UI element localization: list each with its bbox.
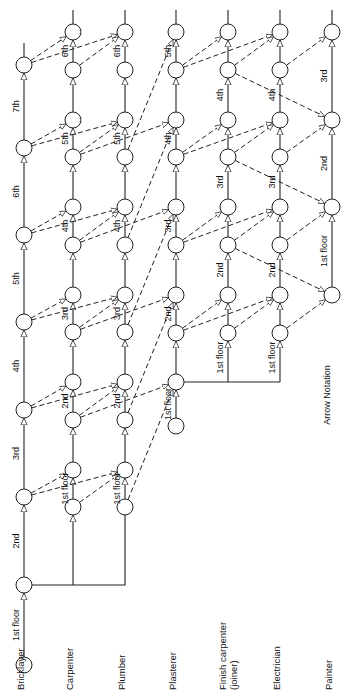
event-node — [220, 287, 236, 303]
event-node — [65, 374, 81, 390]
dummy-arrow — [286, 37, 325, 66]
activity-label: 6th — [11, 185, 21, 198]
activity-label: 4th — [215, 89, 225, 102]
trade-label: Plasterer — [167, 652, 178, 690]
diagram-caption: Arrow Notation — [322, 365, 332, 425]
event-node — [16, 489, 32, 505]
event-node — [324, 24, 340, 40]
activity-label: 3rd — [215, 175, 225, 188]
event-node — [16, 140, 32, 156]
activity-label: 4th — [11, 360, 21, 373]
start-connector — [32, 515, 125, 585]
activity-label: 1st floor — [163, 388, 173, 420]
event-node — [324, 112, 340, 128]
activity-label: 3rd — [319, 69, 329, 82]
event-node — [117, 24, 133, 40]
event-node — [65, 112, 81, 128]
event-node — [65, 62, 81, 78]
event-node — [272, 24, 288, 40]
event-node — [220, 199, 236, 215]
event-node — [117, 62, 133, 78]
activity-labels: 1st floor2nd3rd4th5th6th7th1st floor2nd3… — [11, 45, 329, 641]
event-node — [168, 287, 184, 303]
event-node — [168, 149, 184, 165]
event-node — [168, 112, 184, 128]
trade-label: Carpenter — [64, 648, 75, 690]
event-node — [117, 412, 133, 428]
activity-label: 6th — [112, 45, 122, 58]
activity-label: 2nd — [163, 306, 173, 321]
activity-label: 3rd — [60, 307, 70, 320]
event-node — [168, 237, 184, 253]
event-node — [220, 112, 236, 128]
activity-label: 4th — [267, 89, 277, 102]
activity-label: 4th — [60, 220, 70, 233]
event-node — [117, 237, 133, 253]
activity-label: 2nd — [60, 393, 70, 408]
trade-label: Electrician — [271, 646, 282, 690]
activity-label: 5th — [60, 132, 70, 145]
activity-label: 1st floor — [319, 235, 329, 267]
dummy-arrow — [287, 125, 326, 153]
activity-label: 2nd — [11, 533, 21, 548]
event-node — [168, 199, 184, 215]
dummy-arrow — [286, 300, 325, 329]
event-node — [168, 325, 184, 341]
activity-label: 2nd — [267, 262, 277, 277]
activity-label: 7th — [11, 100, 21, 113]
event-node — [324, 199, 340, 215]
event-node — [220, 237, 236, 253]
activity-label: 5th — [163, 45, 173, 58]
event-node — [272, 199, 288, 215]
activity-label: 5th — [112, 132, 122, 145]
activity-label: 1st floor — [267, 341, 277, 373]
activity-label: 6th — [60, 45, 70, 58]
event-node — [16, 57, 32, 73]
trade-label: Painter — [323, 660, 334, 690]
event-node — [65, 199, 81, 215]
event-node — [16, 577, 32, 593]
event-node — [272, 112, 288, 128]
activity-label: 3rd — [267, 175, 277, 188]
activity-label: 1st floor — [11, 609, 21, 641]
activity-label: 3rd — [112, 307, 122, 320]
trade-labels: BricklayerCarpenterPlumberPlastererFinis… — [15, 622, 334, 690]
event-node — [168, 62, 184, 78]
event-node — [117, 287, 133, 303]
event-node — [117, 374, 133, 390]
event-node — [117, 149, 133, 165]
event-node — [16, 402, 32, 418]
event-node — [168, 374, 184, 390]
event-nodes — [16, 24, 340, 673]
activity-label: 1st floor — [215, 341, 225, 373]
activity-label: 2nd — [112, 393, 122, 408]
event-node — [16, 227, 32, 243]
event-node — [272, 237, 288, 253]
arrow-notation-diagram: 1st floor2nd3rd4th5th6th7th1st floor2nd3… — [0, 0, 362, 699]
activity-label: 3rd — [11, 447, 21, 460]
activity-label: 4th — [163, 132, 173, 145]
event-node — [168, 24, 184, 40]
event-node — [272, 62, 288, 78]
event-node — [65, 237, 81, 253]
event-node — [117, 324, 133, 340]
trade-label: Bricklayer — [15, 648, 26, 690]
activity-label: 4th — [112, 220, 122, 233]
event-node — [117, 112, 133, 128]
event-node — [65, 412, 81, 428]
activity-label: 3rd — [163, 219, 173, 232]
event-node — [16, 314, 32, 330]
event-node — [117, 199, 133, 215]
activity-label: 1st floor — [112, 472, 122, 504]
activity-label: 5th — [11, 272, 21, 285]
event-node — [220, 24, 236, 40]
event-node — [65, 24, 81, 40]
activity-label: 2nd — [215, 262, 225, 277]
event-node — [272, 287, 288, 303]
event-node — [65, 287, 81, 303]
event-node — [65, 149, 81, 165]
event-node — [220, 325, 236, 341]
trade-label: Finish carpenter(joiner) — [217, 622, 239, 690]
event-node — [324, 287, 340, 303]
event-node — [272, 325, 288, 341]
